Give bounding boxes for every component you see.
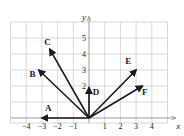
x-tick-label: −3	[38, 122, 47, 131]
y-tick-label: 4	[82, 50, 86, 59]
x-tick-label: 2	[118, 122, 122, 131]
x-tick-label: 1	[103, 122, 107, 131]
y-tick-label: 2	[82, 82, 86, 91]
x-tick-label: −2	[53, 122, 62, 131]
y-axis-label: y	[81, 12, 86, 22]
vector-label-c: C	[44, 37, 51, 47]
x-tick-label: −1	[69, 122, 78, 131]
y-tick-label: 5	[82, 34, 86, 43]
vector-label-b: B	[29, 69, 35, 79]
x-tick-label: 4	[150, 122, 154, 131]
vector-label-e: E	[125, 56, 131, 66]
axes: xy−4−3−2−112342345	[11, 12, 181, 131]
vector-label-f: F	[142, 87, 148, 97]
vector-label-d: D	[93, 87, 100, 97]
x-axis-label: x	[175, 121, 180, 131]
x-tick-label: −4	[22, 122, 31, 131]
y-tick-label: 3	[82, 66, 86, 75]
vector-diagram: xy−4−3−2−112342345 ABCDEF	[0, 0, 184, 136]
vector-label-a: A	[45, 103, 52, 113]
x-tick-label: 3	[134, 122, 138, 131]
